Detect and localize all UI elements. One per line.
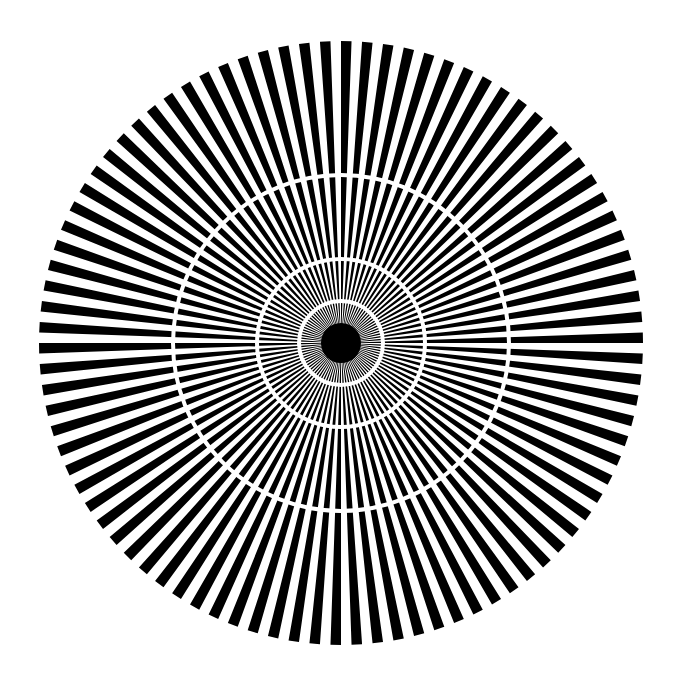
- test-pattern-canvas: [0, 0, 678, 685]
- siemens-star: [0, 0, 678, 685]
- center-dot: [321, 323, 361, 363]
